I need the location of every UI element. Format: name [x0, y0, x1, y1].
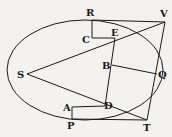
segment-ad — [72, 106, 105, 107]
segment-bq — [112, 65, 157, 74]
point-label-s: S — [17, 69, 24, 80]
point-label-r: R — [86, 7, 95, 18]
point-label-v: V — [159, 8, 168, 19]
point-label-b: B — [102, 60, 110, 71]
segment-sv — [27, 22, 165, 74]
point-label-c: C — [82, 34, 90, 45]
point-label-a: A — [62, 102, 71, 113]
point-label-t: T — [143, 122, 151, 133]
point-label-p: P — [67, 120, 75, 131]
ellipse-tangent-diagram: RVCESBQADPT — [0, 0, 172, 137]
diagram-canvas: RVCESBQADPT — [0, 0, 172, 137]
point-label-d: D — [104, 100, 113, 111]
point-label-q: Q — [158, 69, 167, 80]
point-label-e: E — [111, 27, 119, 38]
segment-ed — [105, 38, 115, 106]
